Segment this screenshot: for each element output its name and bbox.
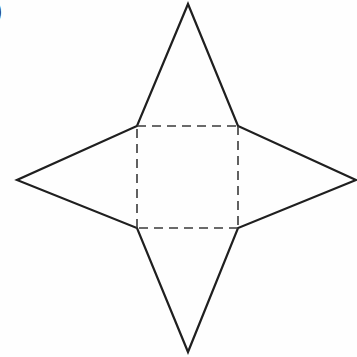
four-pointed-star-outline <box>17 4 356 352</box>
inner-dashed-square-group <box>137 126 238 228</box>
star-outline-group <box>17 4 356 352</box>
figure-canvas: ) <box>0 0 357 357</box>
star-figure-svg <box>0 0 357 357</box>
